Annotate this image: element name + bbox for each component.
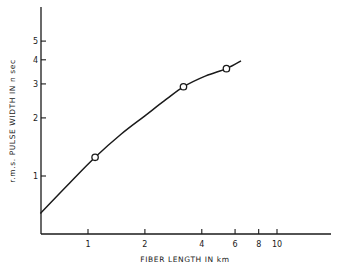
y-axis-label: r.m.s. PULSE WIDTH IN n sec — [8, 59, 17, 182]
plot-area — [40, 61, 241, 214]
x-tick-label: 1 — [85, 240, 90, 249]
pulse-width-chart: 1246810 12345 FIBER LENGTH IN km r.m.s. … — [0, 0, 337, 273]
data-point-marker — [223, 65, 229, 71]
y-tick-label: 2 — [33, 114, 38, 123]
x-tick-label: 10 — [272, 240, 282, 249]
fitted-curve — [40, 61, 241, 214]
x-tick-label: 4 — [199, 240, 204, 249]
x-tick-label: 8 — [256, 240, 261, 249]
x-axis-label: FIBER LENGTH IN km — [140, 255, 229, 264]
axes — [41, 7, 331, 234]
y-tick-label: 5 — [33, 37, 38, 46]
x-tick-label: 6 — [233, 240, 238, 249]
data-point-marker — [92, 154, 98, 160]
x-tick-label: 2 — [142, 240, 147, 249]
x-ticks: 1246810 — [85, 229, 282, 249]
y-tick-label: 4 — [33, 56, 38, 65]
y-tick-label: 3 — [33, 80, 38, 89]
y-ticks: 12345 — [33, 37, 46, 181]
y-tick-label: 1 — [33, 172, 38, 181]
data-point-marker — [180, 84, 186, 90]
